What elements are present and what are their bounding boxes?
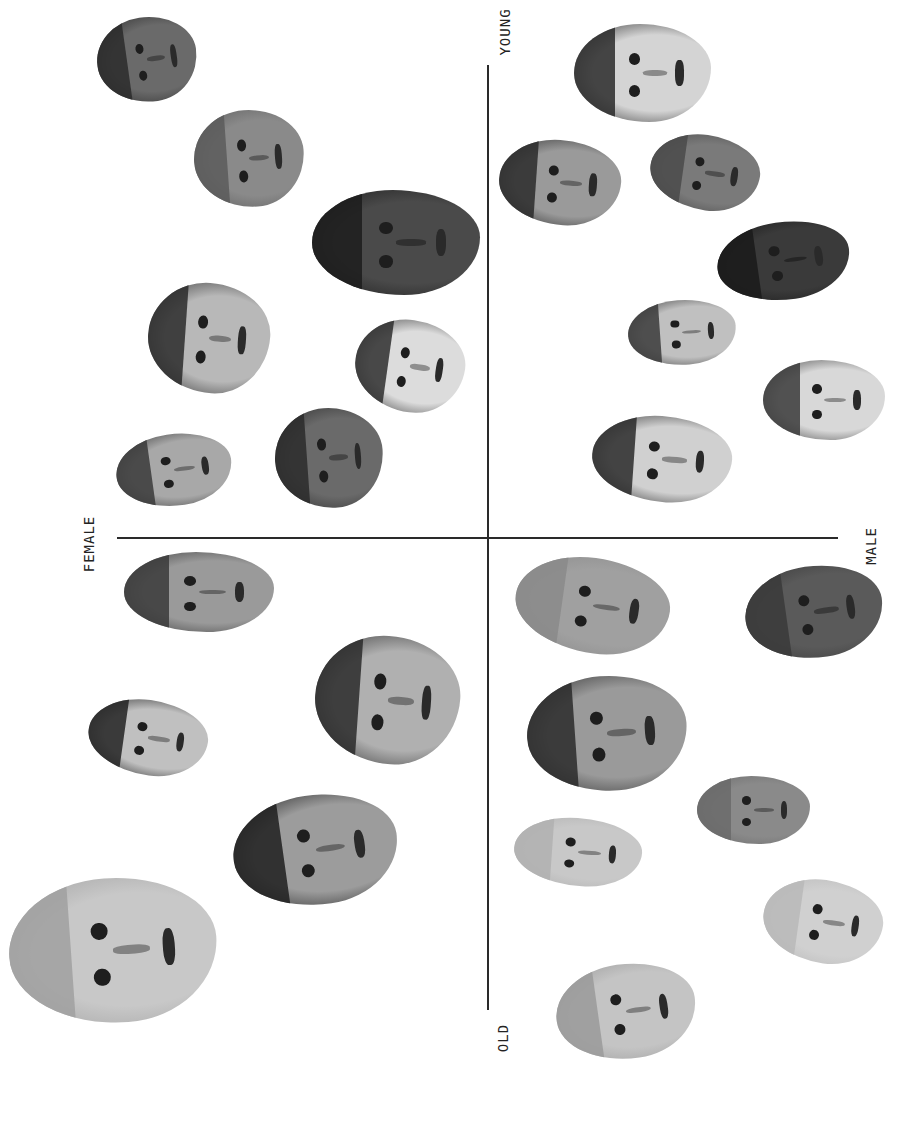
nose-feature: [578, 850, 601, 856]
eye-feature: [195, 350, 206, 364]
face-photo: [272, 404, 387, 511]
eye-feature: [812, 903, 823, 914]
nose-feature: [199, 590, 226, 595]
hair-region: [83, 692, 129, 771]
mouth-feature: [169, 44, 178, 67]
mouth-feature: [644, 715, 656, 745]
nose-feature: [626, 1005, 652, 1014]
face-photo: [311, 631, 465, 769]
eye-feature: [137, 721, 148, 731]
eye-feature: [134, 745, 145, 755]
hair-region: [191, 112, 231, 211]
face-photo: [763, 360, 885, 440]
eye-feature: [139, 70, 148, 81]
eye-feature: [566, 838, 577, 847]
mouth-feature: [353, 829, 367, 859]
nose-feature: [823, 919, 845, 927]
nose-feature: [592, 603, 620, 613]
eye-feature: [564, 859, 575, 868]
mouth-feature: [161, 927, 176, 965]
eye-feature: [614, 1023, 627, 1036]
nose-feature: [147, 54, 166, 62]
face-photo: [509, 548, 676, 664]
hair-region: [226, 800, 290, 916]
hair-region: [523, 678, 579, 796]
eye-feature: [160, 456, 170, 466]
mouth-feature: [434, 358, 444, 383]
eye-feature: [772, 271, 784, 282]
hair-region: [4, 881, 76, 1030]
face-photo: [144, 279, 273, 397]
nose-feature: [662, 456, 687, 463]
eye-feature: [609, 993, 622, 1006]
nose-feature: [396, 239, 426, 245]
mouth-feature: [814, 245, 825, 266]
face-photo: [112, 426, 237, 513]
hair-region: [349, 313, 394, 409]
nose-feature: [754, 808, 774, 812]
label-female: FEMALE: [81, 509, 97, 579]
eye-feature: [164, 479, 174, 489]
mouth-feature: [588, 174, 597, 197]
eye-feature: [670, 320, 679, 328]
eye-feature: [742, 818, 751, 826]
hair-region: [626, 302, 663, 369]
eye-feature: [649, 441, 661, 452]
gender-axis-line: [117, 537, 838, 539]
eye-feature: [93, 968, 111, 987]
eye-feature: [296, 829, 311, 844]
eye-feature: [798, 594, 810, 606]
hair-region: [512, 814, 555, 885]
eye-feature: [379, 255, 392, 268]
face-photo: [191, 106, 307, 210]
nose-feature: [705, 170, 725, 177]
face-photo: [626, 296, 738, 368]
eye-feature: [692, 180, 702, 190]
age-axis-line: [487, 65, 489, 1010]
mouth-feature: [200, 456, 209, 476]
eye-feature: [812, 384, 822, 394]
nose-feature: [315, 843, 345, 854]
face-photo: [739, 557, 888, 667]
face-photo: [226, 784, 405, 916]
nose-feature: [643, 70, 668, 76]
eye-feature: [574, 615, 588, 628]
eye-feature: [742, 796, 751, 804]
nose-feature: [607, 728, 636, 737]
eye-feature: [301, 864, 316, 879]
eye-feature: [768, 246, 780, 257]
eye-feature: [374, 673, 387, 689]
hair-region: [550, 968, 605, 1068]
nose-feature: [410, 363, 430, 371]
eye-feature: [184, 576, 196, 586]
eye-feature: [184, 602, 196, 612]
eye-feature: [237, 139, 247, 151]
eye-feature: [672, 340, 681, 348]
nose-feature: [148, 735, 170, 742]
nose-feature: [209, 335, 231, 343]
eye-feature: [239, 170, 249, 182]
mouth-feature: [675, 60, 683, 85]
eye-feature: [317, 438, 326, 451]
eye-feature: [319, 470, 328, 483]
hair-region: [574, 24, 615, 122]
nose-feature: [249, 154, 269, 161]
face-photo: [512, 814, 644, 891]
eye-feature: [379, 222, 392, 235]
eye-feature: [695, 156, 705, 166]
face-photo: [697, 776, 810, 844]
face-photo: [4, 871, 222, 1030]
nose-feature: [682, 329, 702, 334]
hair-region: [272, 410, 311, 512]
eye-feature: [592, 747, 606, 762]
hair-region: [697, 776, 731, 844]
face-photo: [712, 213, 855, 309]
mouth-feature: [850, 915, 860, 937]
label-old: OLD: [495, 1018, 511, 1058]
mouth-feature: [845, 594, 857, 619]
eye-feature: [371, 714, 384, 730]
eye-feature: [589, 711, 603, 726]
nose-feature: [824, 398, 846, 403]
mouth-feature: [237, 326, 246, 355]
nose-feature: [113, 944, 151, 955]
